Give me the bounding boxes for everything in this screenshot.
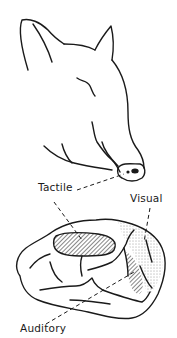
brain-drawing [17,219,165,318]
label-auditory: Auditory [20,322,66,334]
diagram-drawing [0,0,177,338]
label-tactile: Tactile [38,181,73,193]
label-visual: Visual [130,192,163,204]
diagram-canvas: Tactile Visual Auditory [0,0,177,338]
pig-head-drawing [20,19,144,181]
